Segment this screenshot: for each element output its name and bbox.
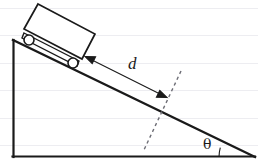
cart xyxy=(22,4,95,68)
physics-diagram-canvas: d θ xyxy=(0,0,258,165)
front-wheel-icon xyxy=(68,58,78,68)
distance-label: d xyxy=(128,55,137,72)
distance-measurement-arrow xyxy=(85,57,167,98)
rear-wheel-icon xyxy=(24,35,34,45)
distance-arrowhead-right xyxy=(157,91,168,98)
distance-arrowhead-left xyxy=(85,57,96,64)
inclined-plane-diagram xyxy=(0,0,258,165)
angle-label: θ xyxy=(203,137,211,151)
